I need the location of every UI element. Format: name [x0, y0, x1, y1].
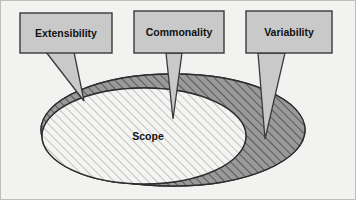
scope-diagram: Scope Extensibility Commonality Variabil…: [0, 0, 356, 200]
callout-variability-label: Variability: [264, 26, 314, 38]
scope-label: Scope: [132, 130, 164, 142]
diagram-canvas: Scope Extensibility Commonality Variabil…: [0, 0, 356, 200]
callout-commonality-label: Commonality: [146, 26, 213, 38]
callout-extensibility-label: Extensibility: [35, 27, 97, 39]
